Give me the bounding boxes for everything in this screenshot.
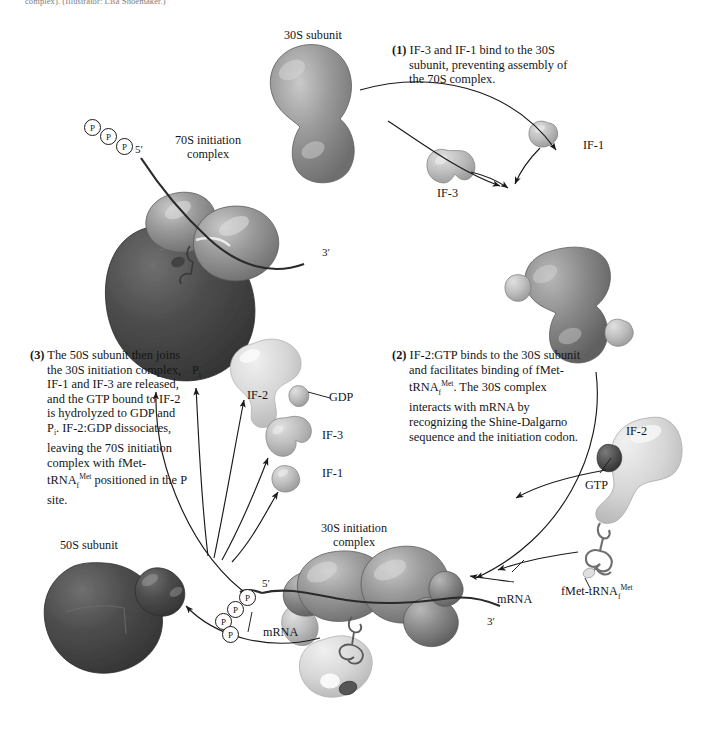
- step-1-body: IF-3 and IF-1 bind to the 30S subunit, p…: [409, 43, 567, 86]
- step2-trna-sub: f: [439, 388, 442, 397]
- step-2-text: (2) IF-2:GTP binds to the 30S subunit an…: [392, 348, 582, 444]
- label-pi: Pi: [192, 363, 201, 382]
- label-mrna-right: mRNA: [497, 592, 532, 606]
- label-70s-line1: 70S initiation: [175, 133, 241, 147]
- phosphate-circle-top-2: P: [100, 128, 117, 145]
- arrow-mrna-in: [470, 576, 514, 582]
- figure-canvas: complex). (Illustrator: Lisa Shoemaker.): [0, 0, 706, 732]
- shape-30s-initiation-complex: [262, 546, 500, 697]
- arrow-release-pi: [196, 388, 208, 556]
- label-if3-released: IF-3: [322, 428, 343, 442]
- label-fmet-sup: Met: [620, 583, 632, 592]
- arrow-release-if1: [232, 492, 278, 562]
- arrow-30s-to-step1: [360, 82, 556, 150]
- label-70s-initiation-complex: 70S initiation complex: [158, 133, 258, 161]
- label-70s-line2: complex: [187, 147, 229, 161]
- arrow-trna-in: [498, 552, 578, 570]
- step3-pi-sub: i: [54, 428, 56, 437]
- label-30s-subunit: 30S subunit: [284, 28, 342, 42]
- step-1-text: (1) IF-3 and IF-1 bind to the 30S subuni…: [392, 43, 572, 87]
- shape-initiation-codon-blob: [337, 679, 358, 697]
- label-fmet-trna: fMet-tRNAfMet: [561, 581, 633, 604]
- arrow-release-if2: [214, 400, 244, 558]
- figure-caption-top: complex). (Illustrator: Lisa Shoemaker.): [25, 0, 325, 6]
- leader-gdp: [308, 392, 330, 398]
- step-3-text: (3) The 50S subunit then joins the 30S i…: [30, 348, 190, 508]
- shape-50s-subunit: [44, 563, 185, 674]
- label-30sic-line1: 30S initiation: [321, 521, 387, 535]
- label-5prime-bottom: 5′: [262, 576, 270, 590]
- phosphate-circle-bottom-4: P: [222, 626, 239, 643]
- label-fmet-sub: f: [618, 592, 621, 601]
- shape-fmet-trna: [586, 523, 612, 574]
- label-gdp: GDP: [329, 390, 353, 404]
- arrow-release-if3: [222, 458, 268, 560]
- arrow-if1-to-30s: [515, 148, 540, 184]
- step-1-number: (1): [392, 43, 406, 57]
- label-if3-free: IF-3: [437, 186, 458, 200]
- label-30sic-line2: complex: [333, 535, 375, 549]
- label-if1-free: IF-1: [583, 138, 604, 152]
- label-gtp: GTP: [585, 478, 608, 492]
- label-if2-gtp: IF-2: [626, 424, 647, 438]
- step-2-number: (2): [392, 348, 406, 362]
- phosphate-circle-top-1: P: [84, 119, 101, 136]
- label-pi-base: P: [192, 363, 199, 377]
- step3-trna-sup: Met: [79, 472, 91, 481]
- label-if2-released: IF-2: [247, 388, 268, 402]
- shape-if3-released: [266, 416, 311, 456]
- label-pi-sub: i: [199, 370, 201, 379]
- label-5prime-top: 5′: [135, 142, 143, 156]
- shape-30s-with-factors: [505, 247, 633, 363]
- step3-trna-sub: f: [77, 481, 80, 490]
- label-if1-released: IF-1: [322, 466, 343, 480]
- shape-if1-free: [529, 121, 558, 147]
- arrow-step1-pointer: [388, 121, 500, 186]
- step2-trna-sup: Met: [441, 379, 453, 388]
- shape-if3-free: [427, 149, 475, 183]
- shape-30s-subunit-top: [270, 45, 354, 183]
- label-30s-initiation-complex: 30S initiation complex: [304, 521, 404, 549]
- leader-gtp: [600, 458, 611, 473]
- shape-if1-released: [272, 466, 300, 493]
- arrow-50s-join: [186, 606, 320, 643]
- label-50s-subunit: 50S subunit: [60, 538, 118, 552]
- step-3-number: (3): [30, 348, 44, 362]
- leader-mrna-bottom: [248, 612, 252, 632]
- label-mrna-left: mRNA: [263, 625, 298, 639]
- label-3prime-bottom: 3′: [487, 614, 495, 628]
- phosphate-circle-top-3: P: [116, 138, 133, 155]
- shape-if2-released: [230, 339, 308, 428]
- label-3prime-top: 3′: [322, 245, 330, 259]
- label-fmet-base: fMet-tRNA: [561, 584, 618, 598]
- arrow-if3-to-30s: [471, 172, 508, 188]
- shape-fmet-residue: [582, 566, 597, 579]
- leader-mrna-right: [512, 560, 524, 572]
